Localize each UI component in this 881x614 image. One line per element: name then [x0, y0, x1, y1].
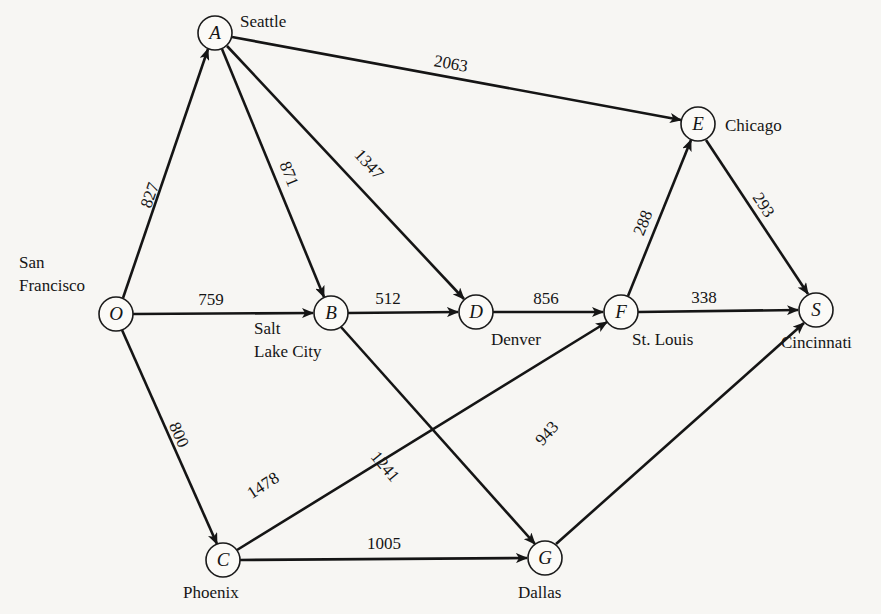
node-D: D — [459, 295, 493, 329]
city-label-salt-lake-city: Lake City — [254, 342, 322, 361]
weight-A-D: 1347 — [350, 145, 387, 183]
edge-C-G — [240, 558, 527, 560]
svg-text:G: G — [538, 547, 552, 568]
city-label-phoenix: Phoenix — [183, 583, 239, 602]
edge-O-B — [133, 313, 313, 314]
svg-text:A: A — [207, 22, 221, 43]
svg-text:D: D — [468, 301, 483, 322]
node-A: A — [198, 16, 232, 50]
edge-B-G — [341, 327, 535, 544]
weight-A-E: 2063 — [433, 51, 470, 76]
city-label-dallas: Dallas — [518, 583, 561, 602]
edge-B-D — [348, 312, 458, 313]
svg-text:E: E — [691, 113, 704, 134]
edge-F-S — [638, 310, 798, 312]
node-O: O — [99, 297, 133, 331]
node-E: E — [681, 107, 715, 141]
svg-text:B: B — [325, 302, 337, 323]
city-label-cincinnati: Cincinnati — [781, 333, 852, 352]
weight-B-D: 512 — [375, 289, 401, 308]
edge-A-D — [227, 46, 464, 299]
city-label-san-francisco: San — [19, 253, 45, 272]
city-label-san-francisco: Francisco — [19, 276, 85, 295]
edge-G-S — [556, 323, 804, 544]
svg-text:C: C — [217, 549, 230, 570]
weight-O-B: 759 — [198, 290, 224, 309]
weight-A-B: 871 — [276, 159, 303, 190]
weight-E-S: 293 — [749, 189, 779, 221]
city-label-denver: Denver — [491, 330, 541, 349]
city-label-chicago: Chicago — [725, 116, 782, 135]
weight-G-S: 943 — [531, 417, 562, 449]
weight-O-C: 800 — [165, 419, 193, 450]
node-G: G — [528, 541, 562, 575]
edge-O-A — [123, 49, 208, 298]
city-labels: San Francisco Seattle Salt Lake City Pho… — [19, 12, 852, 602]
weight-F-S: 338 — [691, 288, 717, 307]
svg-text:F: F — [614, 301, 627, 322]
node-F: F — [604, 295, 638, 329]
city-label-salt-lake-city: Salt — [254, 319, 281, 338]
city-label-st-louis: St. Louis — [632, 330, 693, 349]
weight-C-G: 1005 — [367, 534, 401, 553]
svg-text:S: S — [811, 299, 821, 320]
edge-A-E — [232, 37, 681, 120]
edge-A-B — [222, 49, 324, 297]
edge-E-S — [706, 140, 808, 294]
weight-D-F: 856 — [533, 289, 559, 308]
svg-text:O: O — [109, 303, 123, 324]
network-diagram: 827 759 800 871 1347 2063 512 1241 1478 … — [0, 0, 881, 614]
city-label-seattle: Seattle — [240, 12, 286, 31]
node-B: B — [314, 296, 348, 330]
node-S: S — [799, 293, 833, 327]
weight-C-F: 1478 — [244, 468, 283, 502]
node-C: C — [206, 543, 240, 577]
weight-O-A: 827 — [137, 180, 163, 211]
edge-O-C — [122, 330, 217, 544]
